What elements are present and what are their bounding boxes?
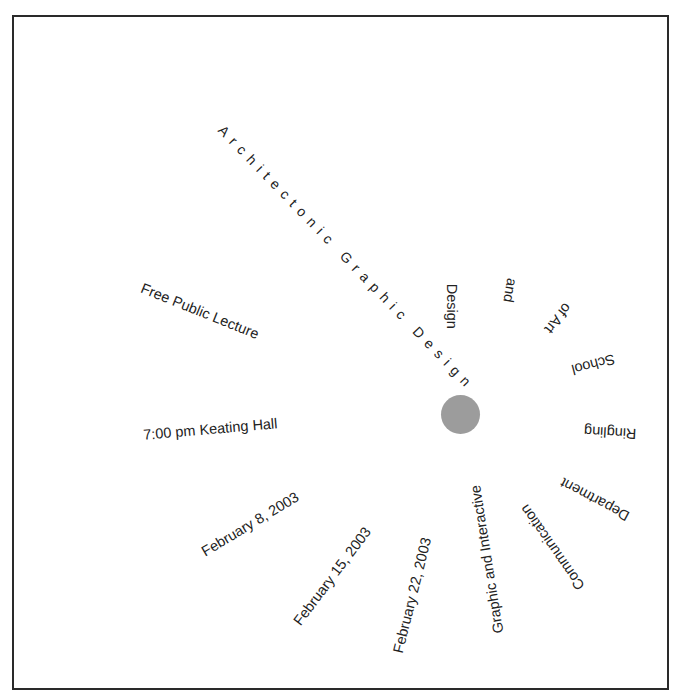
center-dot (441, 395, 480, 434)
host-design: Design (444, 284, 459, 329)
host-ringling: Ringling (584, 424, 637, 441)
host-and: and (501, 277, 519, 303)
